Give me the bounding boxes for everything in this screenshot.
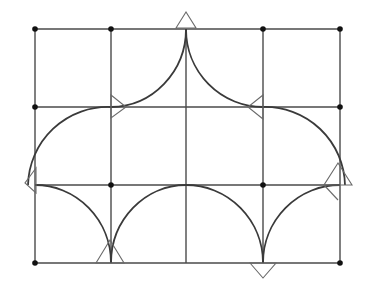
grid-dot (32, 104, 38, 110)
grid-dot (108, 182, 114, 188)
lower-right-arc-1 (186, 185, 263, 263)
grid-dot (108, 26, 114, 32)
grid-dot (32, 260, 38, 266)
grid-dot (337, 260, 343, 266)
grid-dot (337, 104, 343, 110)
right-edge-triangle-icon (324, 163, 352, 185)
grid-dot (337, 26, 343, 32)
ogee-arch-diagram (0, 0, 368, 300)
grid-dot (260, 182, 266, 188)
lower-left-arc-2 (111, 185, 186, 263)
upper-right-outer-arc (263, 107, 345, 185)
construction-grid (35, 29, 340, 263)
lower-left-arc-1 (35, 185, 111, 263)
bottom-right-triangle-icon (250, 263, 276, 278)
upper-left-inner-arc (111, 29, 186, 107)
lower-right-arc-2 (263, 185, 340, 263)
grid-dot (32, 26, 38, 32)
upper-left-outer-arc (28, 107, 111, 185)
grid-node-dots (32, 26, 343, 266)
right-edge-extra-line-icon (324, 185, 338, 200)
top-center-triangle-icon (176, 12, 196, 28)
grid-dot (260, 26, 266, 32)
upper-right-inner-arc (186, 29, 263, 107)
